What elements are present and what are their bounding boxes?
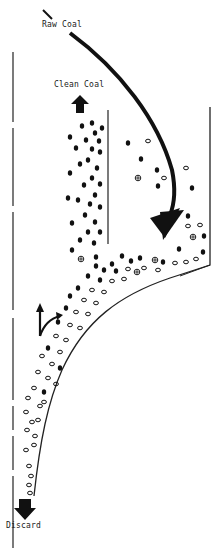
inner-lip xyxy=(180,265,210,276)
clean-coal-arrow-icon xyxy=(71,95,89,113)
discard-arrow-icon xyxy=(14,499,36,520)
clean-coal-label: Clean Coal xyxy=(54,80,104,89)
curved-separator-wall xyxy=(34,107,210,496)
discard-label: Discard xyxy=(6,521,41,530)
clean-coal-particles xyxy=(66,120,104,262)
feed-arrow-icon xyxy=(43,10,184,240)
raw-coal-label: Raw Coal xyxy=(42,20,82,29)
bed-particles xyxy=(24,253,189,495)
separator-diagram xyxy=(0,0,220,557)
